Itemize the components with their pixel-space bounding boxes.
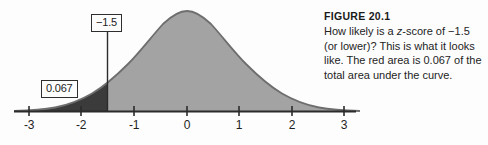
tick-label-minus3: -3 bbox=[17, 118, 41, 132]
tick-label-plus2: 2 bbox=[280, 118, 304, 132]
callout-tail-area-value: 0.067 bbox=[41, 80, 78, 98]
normal-distribution-chart: -3 -2 -1 0 1 2 3 −1.5 0.067 bbox=[0, 0, 365, 145]
figure-caption-title: FIGURE 20.1 bbox=[324, 10, 484, 22]
figure-caption: FIGURE 20.1 How likely is a z-score of −… bbox=[324, 10, 484, 82]
tick-label-minus2: -2 bbox=[69, 118, 93, 132]
figure-caption-body: How likely is a z-score of −1.5 (or lowe… bbox=[324, 24, 484, 82]
callout-zscore-value: −1.5 bbox=[91, 14, 122, 32]
tick-label-minus1: -1 bbox=[122, 118, 146, 132]
caption-text-lead: How likely is a bbox=[324, 25, 397, 37]
tick-label-plus1: 1 bbox=[227, 118, 251, 132]
tick-label-plus3: 3 bbox=[332, 118, 356, 132]
figure-container: -3 -2 -1 0 1 2 3 −1.5 0.067 FIGURE 20.1 … bbox=[0, 0, 488, 145]
tick-label-zero: 0 bbox=[175, 118, 199, 132]
